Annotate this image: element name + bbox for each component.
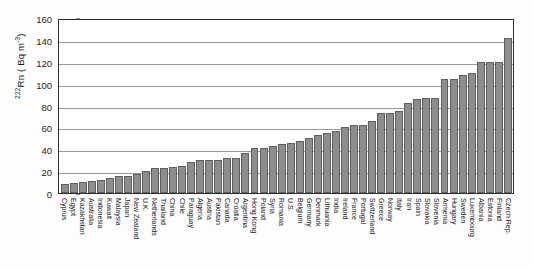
x-label-slot: Pakistan: [214, 196, 222, 270]
x-axis-label: China: [169, 198, 176, 216]
x-label-slot: New Zealand: [132, 196, 140, 270]
x-label-slot: India: [332, 196, 340, 270]
x-axis-label: Egypt: [69, 198, 76, 216]
x-label-slot: France: [350, 196, 358, 270]
x-axis-label: India: [332, 198, 339, 213]
x-axis-label: Ireland: [341, 198, 348, 219]
x-axis-label: Sweden: [459, 198, 466, 223]
x-axis-label: Chile: [178, 198, 185, 214]
bar: [323, 133, 331, 193]
x-label-slot: Cyprus: [60, 196, 68, 270]
x-label-slot: Germany: [305, 196, 313, 270]
x-label-slot: U.S.: [287, 196, 295, 270]
x-axis-label: Luxembourg: [469, 198, 476, 237]
x-axis-label: Switzerland: [369, 198, 376, 234]
y-axis-title-sup-pre: 222: [14, 87, 21, 98]
x-label-slot: Albania: [477, 196, 485, 270]
x-axis-label: Norway: [387, 198, 394, 222]
bar: [386, 113, 394, 193]
x-axis-label: Greece: [378, 198, 385, 221]
x-axis-label: Iran: [405, 198, 412, 210]
bar: [314, 135, 322, 193]
bar: [232, 158, 240, 193]
x-label-slot: China: [168, 196, 176, 270]
bar: [196, 160, 204, 193]
x-axis-label: Czech Rep.: [505, 198, 512, 235]
bar: [377, 113, 385, 193]
x-axis-label: Australia: [87, 198, 94, 225]
x-label-slot: Luxembourg: [468, 196, 476, 270]
x-label-slot: Syria: [268, 196, 276, 270]
bar: [368, 121, 376, 193]
x-axis-label: Armenia: [441, 198, 448, 224]
x-label-slot: Finland: [495, 196, 503, 270]
bar: [350, 125, 358, 193]
bar: [241, 153, 249, 193]
x-axis-label: Lithuania: [323, 198, 330, 226]
x-axis-label: Germany: [305, 198, 312, 227]
x-label-slot: Czech Rep.: [504, 196, 512, 270]
y-tick-label-20: 20: [22, 167, 52, 178]
y-axis-title-sup-post: -3: [14, 37, 21, 43]
radon-bar-chart: 222Rn ( Bq m-3) 020406080100120140160 Cy…: [0, 0, 534, 270]
bar: [477, 62, 485, 193]
x-axis-label: Denmark: [314, 198, 321, 226]
x-label-slot: Spain: [414, 196, 422, 270]
y-tick-label-100: 100: [22, 79, 52, 90]
x-axis-label: Argentina: [242, 198, 249, 228]
x-label-slot: Greece: [377, 196, 385, 270]
x-axis-label: Japan: [124, 198, 131, 217]
x-axis-label: Kuwait: [105, 198, 112, 219]
bar: [422, 98, 430, 193]
bar: [341, 127, 349, 193]
x-label-slot: Malaysia: [114, 196, 122, 270]
bar: [260, 148, 268, 193]
bar: [151, 168, 159, 193]
bar: [115, 176, 123, 194]
x-label-slot: Kazakhstan: [78, 196, 86, 270]
x-axis-label: Belgium: [296, 198, 303, 223]
x-label-slot: Armenia: [441, 196, 449, 270]
x-label-slot: Portugal: [359, 196, 367, 270]
x-label-slot: Sweden: [459, 196, 467, 270]
bar: [413, 99, 421, 193]
x-label-slot: Denmark: [314, 196, 322, 270]
bar: [495, 62, 503, 193]
x-label-slot: Slovakia: [423, 196, 431, 270]
y-tick-label-140: 140: [22, 35, 52, 46]
x-label-slot: Iran: [405, 196, 413, 270]
x-label-slot: Romania: [277, 196, 285, 270]
x-label-slot: Canada: [223, 196, 231, 270]
bar: [61, 184, 69, 193]
x-axis-label: Syria: [269, 198, 276, 214]
x-axis-label: Hungary: [450, 198, 457, 224]
x-label-slot: Norway: [386, 196, 394, 270]
plot-area: [58, 19, 514, 194]
y-tick-label-60: 60: [22, 123, 52, 134]
bar: [133, 174, 141, 193]
x-axis-label: Spain: [414, 198, 421, 216]
bar: [214, 160, 222, 193]
bar: [359, 125, 367, 193]
x-label-slot: Indonesia: [96, 196, 104, 270]
x-label-slot: U.K.: [141, 196, 149, 270]
bar-series: [59, 20, 513, 193]
bar: [296, 141, 304, 194]
x-axis-label: France: [351, 198, 358, 220]
x-axis-label: U.K.: [142, 198, 149, 212]
x-axis-label: Albania: [478, 198, 485, 221]
x-axis-label: Portugal: [360, 198, 367, 224]
x-axis-label: Austria: [205, 198, 212, 220]
x-label-slot: Australia: [87, 196, 95, 270]
x-label-slot: Japan: [123, 196, 131, 270]
bar: [404, 103, 412, 193]
bar: [223, 158, 231, 193]
x-axis-label: Hong Kong: [251, 198, 258, 233]
bar: [450, 79, 458, 193]
x-axis-label: Cyprus: [60, 198, 67, 220]
y-tick-label-0: 0: [22, 189, 52, 200]
x-label-slot: Paraguay: [187, 196, 195, 270]
y-tick-label-80: 80: [22, 101, 52, 112]
bar: [160, 168, 168, 193]
x-axis-label: New Zealand: [133, 198, 140, 239]
